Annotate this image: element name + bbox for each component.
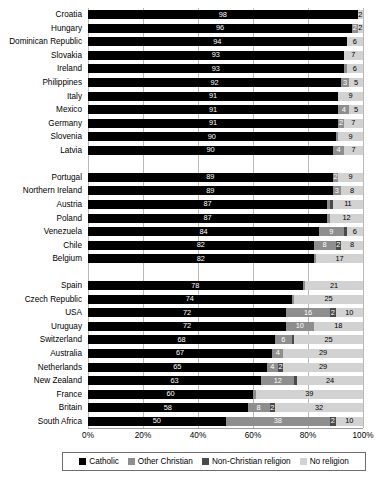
bar-segment-catholic: 90 bbox=[88, 146, 333, 155]
value-label: 2 bbox=[358, 11, 364, 18]
category-label: USA bbox=[65, 308, 82, 317]
bar-segment-other-christian: 4 bbox=[333, 146, 344, 155]
bar-segment-other-christian: 3 bbox=[341, 78, 349, 87]
legend-item[interactable]: No religion bbox=[300, 457, 349, 466]
bar-segment-catholic: 84 bbox=[88, 227, 319, 236]
gridline-100 bbox=[363, 8, 364, 428]
value-label: 21 bbox=[305, 282, 363, 289]
bar-row: 7425 bbox=[88, 295, 363, 304]
bar-segment-no-religion: 21 bbox=[305, 281, 363, 290]
bar-row: 9145 bbox=[88, 105, 363, 114]
legend-item[interactable]: Catholic bbox=[79, 457, 119, 466]
category-label: Hungary bbox=[51, 24, 82, 33]
x-tick-label: 80% bbox=[300, 431, 316, 441]
value-label: 10 bbox=[286, 323, 314, 330]
bar-segment-other-christian: 4 bbox=[272, 349, 283, 358]
x-tick-label: 60% bbox=[245, 431, 261, 441]
bar-track: 7425 bbox=[88, 295, 363, 304]
bar-segment-no-religion: 39 bbox=[256, 390, 363, 399]
value-label: 89 bbox=[88, 174, 333, 181]
value-label: 65 bbox=[88, 363, 267, 370]
value-label: 4 bbox=[272, 350, 283, 357]
x-tick-label: 20% bbox=[135, 431, 151, 441]
bar-segment-catholic: 93 bbox=[88, 64, 344, 73]
category-label: Poland bbox=[57, 214, 83, 223]
bar-track: 8938 bbox=[88, 186, 363, 195]
bar-segment-catholic: 93 bbox=[88, 51, 344, 60]
legend-item[interactable]: Other Christian bbox=[128, 457, 193, 466]
x-axis-ticks: 0%20%40%60%80%100% bbox=[88, 429, 363, 443]
value-label: 72 bbox=[88, 309, 286, 316]
bar-segment-no-religion: 9 bbox=[338, 132, 363, 141]
value-label: 29 bbox=[283, 363, 363, 370]
bar-track: 8712 bbox=[88, 214, 363, 223]
bar-row: 6039 bbox=[88, 390, 363, 399]
value-label: 25 bbox=[294, 296, 363, 303]
bar-segment-catholic: 90 bbox=[88, 132, 336, 141]
value-label: 9 bbox=[338, 174, 363, 181]
value-label: 10 bbox=[336, 418, 364, 425]
category-label: Italy bbox=[67, 92, 82, 101]
bar-row: 8217 bbox=[88, 254, 363, 263]
bar-segment-other-christian: 3 bbox=[333, 186, 341, 195]
bar-row: 5038210 bbox=[88, 417, 363, 426]
bar-segment-catholic: 92 bbox=[88, 78, 341, 87]
category-label: Philippines bbox=[42, 78, 82, 87]
x-tick-label: 40% bbox=[190, 431, 206, 441]
bar-segment-other-christian: 38 bbox=[226, 417, 331, 426]
x-tick-label: 0% bbox=[82, 431, 94, 441]
bar-segment-no-religion: 5 bbox=[349, 105, 363, 114]
value-label: 82 bbox=[88, 255, 314, 262]
category-label: Latvia bbox=[60, 146, 82, 155]
category-label: Croatia bbox=[56, 10, 82, 19]
bar-segment-catholic: 72 bbox=[88, 308, 286, 317]
bar-row: 7821 bbox=[88, 281, 363, 290]
bar-segment-no-religion: 12 bbox=[330, 214, 363, 223]
value-label: 11 bbox=[333, 201, 363, 208]
bar-track: 8711 bbox=[88, 200, 363, 209]
bar-segment-catholic: 87 bbox=[88, 200, 327, 209]
bar-track: 919 bbox=[88, 92, 363, 101]
category-label: Germany bbox=[48, 119, 82, 128]
value-label: 92 bbox=[88, 79, 341, 86]
legend-swatch-icon bbox=[79, 458, 86, 465]
bar-segment-catholic: 50 bbox=[88, 417, 226, 426]
bar-segment-catholic: 60 bbox=[88, 390, 253, 399]
x-tick-label: 100% bbox=[353, 431, 374, 441]
value-label: 6 bbox=[347, 38, 364, 45]
category-label: Czech Republic bbox=[25, 295, 82, 304]
chart-legend: CatholicOther ChristianNon-Christian rel… bbox=[62, 452, 366, 471]
bar-segment-catholic: 78 bbox=[88, 281, 303, 290]
bar-track: 936 bbox=[88, 64, 363, 73]
bar-segment-catholic: 91 bbox=[88, 119, 338, 128]
bar-segment-catholic: 89 bbox=[88, 186, 333, 195]
value-label: 3 bbox=[333, 187, 341, 194]
bar-row: 946 bbox=[88, 37, 363, 46]
category-label: Switzerland bbox=[40, 335, 82, 344]
bar-segment-catholic: 58 bbox=[88, 403, 248, 412]
bar-row: 919 bbox=[88, 92, 363, 101]
category-label: Dominican Republic bbox=[9, 37, 82, 46]
bar-segment-catholic: 63 bbox=[88, 376, 261, 385]
bar-row: 8938 bbox=[88, 186, 363, 195]
value-label: 18 bbox=[314, 323, 364, 330]
bar-row: 8711 bbox=[88, 200, 363, 209]
bar-segment-no-religion: 7 bbox=[344, 51, 363, 60]
category-label: Austria bbox=[57, 200, 82, 209]
bar-row: 8496 bbox=[88, 227, 363, 236]
bar-segment-catholic: 91 bbox=[88, 92, 338, 101]
bar-track: 588232 bbox=[88, 403, 363, 412]
value-label: 10 bbox=[336, 309, 364, 316]
bar-row: 9127 bbox=[88, 119, 363, 128]
value-label: 12 bbox=[330, 214, 363, 221]
category-label: Spain bbox=[61, 281, 82, 290]
value-label: 32 bbox=[275, 404, 363, 411]
bar-row: 631224 bbox=[88, 376, 363, 385]
value-label: 63 bbox=[88, 377, 261, 384]
legend-item[interactable]: Non-Christian religion bbox=[202, 457, 291, 466]
legend-swatch-icon bbox=[128, 458, 135, 465]
category-label: Chile bbox=[63, 241, 82, 250]
value-label: 6 bbox=[275, 336, 292, 343]
value-label: 74 bbox=[88, 296, 292, 303]
bar-row: 8929 bbox=[88, 173, 363, 182]
